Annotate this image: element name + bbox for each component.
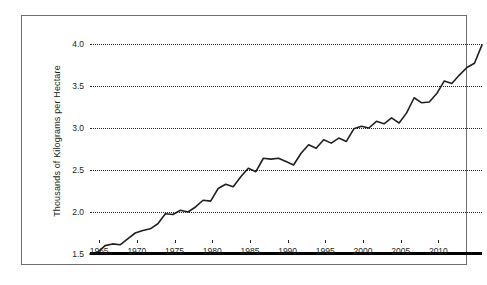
x-tick-label: 1980 — [203, 246, 222, 256]
x-tick — [438, 240, 439, 243]
x-tick — [363, 240, 364, 243]
x-tick — [137, 240, 138, 243]
chart-frame: Thousands of Kilograms per Hectare 1.52.… — [21, 15, 467, 265]
y-tick-label: 1.5 — [72, 249, 84, 259]
x-tick — [401, 240, 402, 243]
chart-figure: Thousands of Kilograms per Hectare 1.52.… — [0, 0, 487, 285]
x-tick — [99, 240, 100, 243]
x-tick — [175, 240, 176, 243]
series-polyline — [90, 45, 482, 254]
y-tick-label: 4.0 — [72, 39, 84, 49]
x-tick — [288, 240, 289, 243]
x-tick-label: 1970 — [127, 246, 146, 256]
y-tick-label: 2.0 — [72, 207, 84, 217]
gridline — [90, 44, 482, 45]
x-tick-label: 2005 — [391, 246, 410, 256]
x-tick-label: 1995 — [316, 246, 335, 256]
x-tick-label: 2000 — [354, 246, 373, 256]
x-tick — [250, 240, 251, 243]
x-tick — [212, 240, 213, 243]
x-tick-label: 2010 — [429, 246, 448, 256]
x-tick-label: 1965 — [90, 246, 109, 256]
gridline — [90, 86, 482, 87]
y-tick-label: 2.5 — [72, 165, 84, 175]
y-axis-title: Thousands of Kilograms per Hectare — [52, 31, 62, 251]
x-tick-label: 1985 — [240, 246, 259, 256]
gridline — [90, 128, 482, 129]
x-tick-label: 1975 — [165, 246, 184, 256]
gridline — [90, 212, 482, 213]
y-tick-label: 3.5 — [72, 81, 84, 91]
gridline — [90, 170, 482, 171]
plot-area: 1.52.02.53.03.54.0 — [90, 44, 482, 254]
line-series-cereal-yield — [90, 44, 482, 254]
x-tick — [325, 240, 326, 243]
y-tick-label: 3.0 — [72, 123, 84, 133]
x-tick-label: 1990 — [278, 246, 297, 256]
